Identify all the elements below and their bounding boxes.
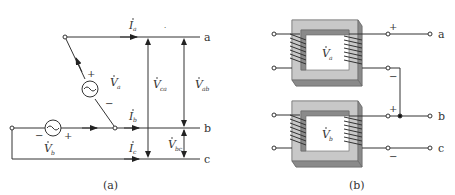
svg-text:b: b xyxy=(329,135,333,142)
node-b-left xyxy=(10,126,14,130)
terminal-b: b xyxy=(204,122,211,135)
svg-text:a: a xyxy=(329,54,333,61)
caption-b: (b) xyxy=(349,179,365,192)
svg-text:−: − xyxy=(35,130,43,141)
svg-text:a: a xyxy=(133,25,137,32)
svg-text:−: − xyxy=(105,98,113,109)
svg-text:+: + xyxy=(389,21,397,32)
node-n xyxy=(113,126,117,130)
node-a-left xyxy=(63,35,67,39)
svg-text:b: b xyxy=(51,149,55,156)
svg-text:a: a xyxy=(117,83,121,90)
svg-text:·: · xyxy=(164,24,166,32)
terminal-a: a xyxy=(204,31,211,44)
arrow-va xyxy=(76,58,82,72)
svg-text:b: b xyxy=(133,116,137,123)
caption-a: (a) xyxy=(103,179,118,192)
svg-text:+: + xyxy=(389,103,397,114)
terminal-c: c xyxy=(204,153,210,166)
svg-text:ca: ca xyxy=(160,85,167,92)
svg-text:−: − xyxy=(389,151,397,162)
va-wire-upper xyxy=(66,39,85,79)
terminal-b-a: a xyxy=(438,28,445,41)
svg-text:c: c xyxy=(133,148,137,155)
svg-text:+: + xyxy=(64,130,72,141)
svg-text:+: + xyxy=(87,68,95,79)
terminal-b-c: c xyxy=(438,142,444,155)
svg-text:bc: bc xyxy=(175,145,183,152)
svg-text:ab: ab xyxy=(202,85,210,92)
svg-text:−: − xyxy=(389,71,397,82)
circuit-figure: a b c (a) I a I b I c V a V b V ca V ab … xyxy=(0,0,455,195)
terminal-b-b: b xyxy=(438,110,445,123)
